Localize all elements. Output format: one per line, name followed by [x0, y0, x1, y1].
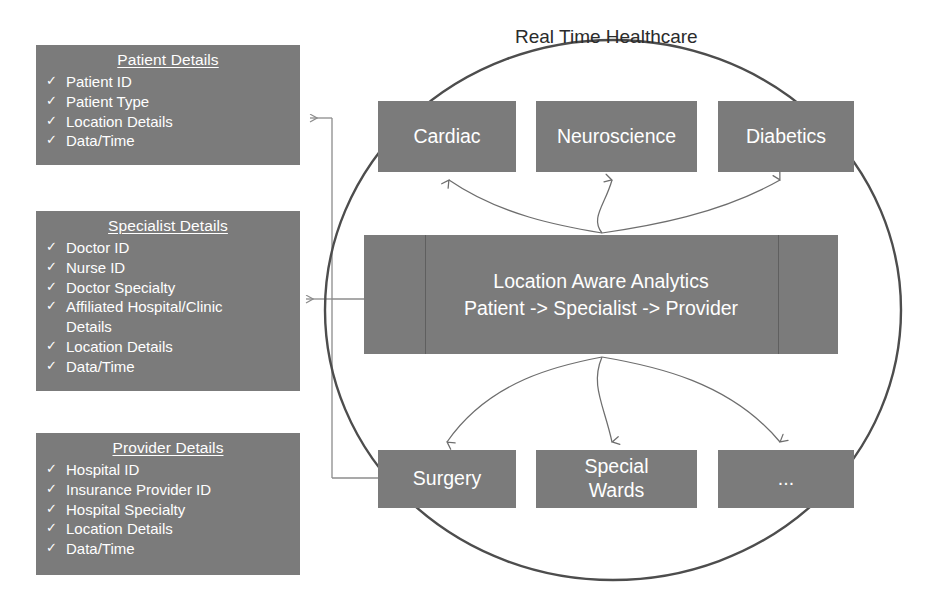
arrow-center-to-neuroscience [597, 180, 612, 233]
diagram-title: Real Time Healthcare [515, 26, 698, 48]
arrow-center-to-surgery [447, 357, 602, 442]
flow-arrow-layer [0, 0, 944, 616]
arrow-center-to-diabetics [602, 180, 780, 233]
arrow-center-to-special-wards [597, 357, 612, 442]
arrow-center-to-ellipsis [602, 357, 780, 442]
arrow-center-to-cardiac [449, 180, 602, 233]
diagram-canvas: Real Time Healthcare Patient Details ✓ P… [0, 0, 944, 616]
